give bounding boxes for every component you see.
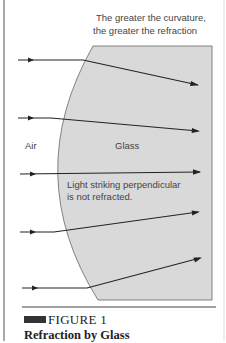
label-glass: Glass bbox=[115, 140, 140, 151]
arrow-icon bbox=[30, 172, 36, 177]
arrow-icon bbox=[28, 58, 34, 63]
annotation-perpendicular-line2: is not refracted. bbox=[67, 191, 132, 202]
caption-bar bbox=[24, 316, 46, 323]
arrow-icon bbox=[28, 116, 34, 121]
annotation-perpendicular-line1: Light striking perpendicular bbox=[67, 179, 181, 190]
annotation-curvature-line2: the greater the refraction bbox=[93, 25, 197, 36]
label-air: Air bbox=[25, 140, 37, 151]
arrow-icon bbox=[30, 230, 36, 235]
arrow-icon bbox=[32, 286, 38, 291]
annotation-curvature-line1: The greater the curvature, bbox=[96, 12, 206, 23]
figure-label: FIGURE 1 bbox=[48, 312, 107, 328]
figure-title: Refraction by Glass bbox=[24, 328, 130, 343]
